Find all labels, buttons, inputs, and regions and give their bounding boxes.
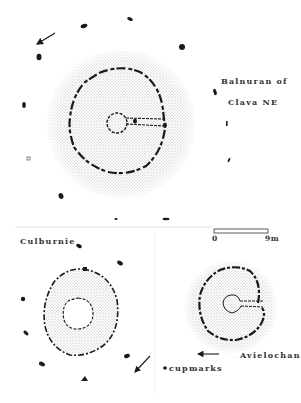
avielochan-plan — [185, 261, 277, 354]
site-plans-diagram — [0, 0, 301, 403]
culburnie-north-arrow-icon — [135, 356, 150, 372]
culburnie-inner-chamber — [63, 298, 93, 329]
scale-end-label: 9m — [265, 234, 279, 243]
balnuaran-plan — [22, 16, 231, 220]
cupmark-legend-dot — [163, 366, 167, 370]
culburnie-title: Culburnie — [20, 236, 76, 246]
small-open-stone — [27, 157, 30, 160]
scale-start-label: 0 — [212, 234, 218, 243]
scale-bar — [214, 229, 268, 233]
culburnie-plan — [21, 243, 150, 381]
north-arrow-icon — [37, 33, 55, 44]
cupmarks-legend-label: cupmarks — [169, 363, 223, 373]
avielochan-title: Avielochan — [240, 350, 301, 360]
balnuaran-title-line2: Clava NE — [228, 97, 278, 107]
balnuaran-title-line1: Balnuran of — [221, 76, 288, 86]
